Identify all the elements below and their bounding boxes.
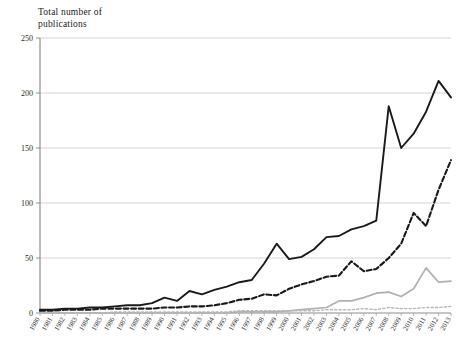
x-tick-label: 2006 xyxy=(352,316,366,333)
x-tick-label: 1988 xyxy=(127,316,141,333)
x-tick-label: 2011 xyxy=(414,316,428,332)
y-tick-label: 50 xyxy=(25,254,33,263)
series-solid-black xyxy=(40,81,451,310)
x-tick-label: 1989 xyxy=(140,316,154,333)
x-tick-label: 1996 xyxy=(227,316,241,333)
x-tick-label: 1990 xyxy=(152,316,166,333)
y-tick-label: 200 xyxy=(21,89,33,98)
x-tick-label: 2012 xyxy=(426,316,440,333)
x-tick-label: 2010 xyxy=(401,316,415,333)
x-tick-label: 1983 xyxy=(65,316,79,333)
x-tick-label: 1998 xyxy=(252,316,266,333)
x-tick-label: 1993 xyxy=(190,316,204,333)
x-tick-label: 1986 xyxy=(103,316,117,333)
x-tick-label: 1982 xyxy=(53,316,67,333)
x-tick-label: 1992 xyxy=(177,316,191,333)
x-tick-label: 1980 xyxy=(28,316,42,333)
x-tick-label: 2004 xyxy=(327,316,341,333)
series-solid-gray xyxy=(40,268,451,313)
x-tick-label: 2002 xyxy=(302,316,316,333)
x-tick-label: 1984 xyxy=(78,316,92,333)
y-tick-label: 100 xyxy=(21,199,33,208)
x-tick-label: 2001 xyxy=(289,316,303,333)
x-tick-label: 1994 xyxy=(202,316,216,333)
x-tick-label: 1995 xyxy=(215,316,229,333)
x-tick-label: 2005 xyxy=(339,316,353,333)
x-tick-label: 2007 xyxy=(364,316,378,333)
plot-area: 0501001502002501980198119821983198419851… xyxy=(0,0,457,351)
x-tick-label: 2000 xyxy=(277,316,291,333)
publications-line-chart: Total number of publications 05010015020… xyxy=(0,0,457,351)
y-tick-label: 0 xyxy=(29,309,33,318)
y-tick-label: 150 xyxy=(21,144,33,153)
x-tick-label: 2009 xyxy=(389,316,403,333)
x-tick-label: 1985 xyxy=(90,316,104,333)
x-tick-label: 1981 xyxy=(40,316,54,333)
x-tick-label: 1991 xyxy=(165,316,179,333)
y-tick-label: 250 xyxy=(21,34,33,43)
x-tick-label: 2003 xyxy=(314,316,328,333)
series-dashed-black xyxy=(40,160,451,311)
x-tick-label: 1999 xyxy=(264,316,278,333)
x-tick-label: 2013 xyxy=(439,316,453,333)
x-tick-label: 2008 xyxy=(377,316,391,333)
x-tick-label: 1997 xyxy=(240,316,254,333)
x-tick-label: 1987 xyxy=(115,316,129,333)
